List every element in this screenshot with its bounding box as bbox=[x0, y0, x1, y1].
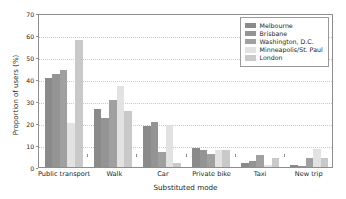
y-tick-label: 60 bbox=[26, 33, 34, 40]
x-axis-title: Substituted mode bbox=[38, 183, 333, 192]
bar bbox=[124, 111, 132, 167]
x-tick-label: Private bike bbox=[187, 170, 236, 182]
bar-group bbox=[187, 15, 236, 167]
bar bbox=[67, 123, 75, 167]
legend-swatch-icon bbox=[245, 55, 256, 60]
bar bbox=[192, 148, 200, 167]
bar-group bbox=[88, 15, 137, 167]
bar bbox=[94, 109, 102, 167]
legend: MelbourneBrisbaneWashington, D.C.Minneap… bbox=[240, 17, 329, 67]
x-tick-label: Walk bbox=[90, 170, 139, 182]
x-tick-mark bbox=[186, 154, 187, 157]
legend-label: Brisbane bbox=[260, 30, 288, 37]
x-tick-label: Car bbox=[139, 170, 188, 182]
bar bbox=[222, 150, 230, 167]
bar bbox=[45, 78, 53, 167]
bar bbox=[306, 158, 314, 167]
bar bbox=[298, 166, 306, 167]
x-tick-mark bbox=[87, 154, 88, 157]
bar bbox=[290, 165, 298, 167]
bar bbox=[109, 100, 117, 167]
bar-group bbox=[39, 15, 88, 167]
bar bbox=[52, 74, 60, 167]
bar bbox=[321, 158, 329, 167]
bar bbox=[313, 149, 321, 167]
bar bbox=[101, 118, 109, 168]
bar bbox=[158, 152, 166, 167]
bar bbox=[200, 150, 208, 167]
legend-swatch-icon bbox=[245, 47, 256, 52]
bar bbox=[60, 70, 68, 167]
y-tick-mark bbox=[36, 168, 39, 169]
bar bbox=[249, 161, 257, 167]
legend-item: London bbox=[245, 54, 323, 61]
legend-item: Minneapolis/St. Paul bbox=[245, 46, 323, 53]
legend-label: London bbox=[260, 54, 283, 61]
y-tick-label: 70 bbox=[26, 11, 34, 18]
x-tick-label: New trip bbox=[284, 170, 333, 182]
y-tick-label: 20 bbox=[26, 121, 34, 128]
bar bbox=[207, 154, 215, 167]
y-tick-label: 0 bbox=[30, 165, 34, 172]
bar-group bbox=[137, 15, 186, 167]
bar bbox=[215, 150, 223, 167]
legend-swatch-icon bbox=[245, 31, 256, 36]
legend-label: Washington, D.C. bbox=[260, 38, 314, 45]
legend-swatch-icon bbox=[245, 39, 256, 44]
bar bbox=[256, 155, 264, 167]
y-tick-label: 50 bbox=[26, 55, 34, 62]
x-tick-label: Taxi bbox=[236, 170, 285, 182]
legend-swatch-icon bbox=[245, 23, 256, 28]
bar bbox=[241, 163, 249, 167]
legend-label: Melbourne bbox=[260, 22, 293, 29]
bar-chart-figure: 010203040506070 Proportion of users (%) … bbox=[0, 0, 346, 199]
legend-item: Melbourne bbox=[245, 22, 323, 29]
x-tick-label: Public transport bbox=[38, 170, 90, 182]
bar bbox=[272, 158, 280, 167]
bar bbox=[151, 122, 159, 167]
x-tick-mark bbox=[235, 154, 236, 157]
y-tick-label: 40 bbox=[26, 77, 34, 84]
x-axis-labels: Public transportWalkCarPrivate bikeTaxiN… bbox=[38, 170, 333, 182]
legend-item: Washington, D.C. bbox=[245, 38, 323, 45]
bar bbox=[173, 163, 181, 167]
legend-label: Minneapolis/St. Paul bbox=[260, 46, 323, 53]
x-tick-mark bbox=[284, 154, 285, 157]
bar bbox=[117, 86, 125, 167]
bar bbox=[264, 165, 272, 167]
bar bbox=[143, 126, 151, 167]
y-axis-title: Proportion of users (%) bbox=[12, 25, 20, 165]
y-tick-label: 30 bbox=[26, 99, 34, 106]
legend-item: Brisbane bbox=[245, 30, 323, 37]
x-tick-mark bbox=[136, 154, 137, 157]
bar bbox=[75, 40, 83, 167]
bar bbox=[166, 125, 174, 167]
y-tick-label: 10 bbox=[26, 143, 34, 150]
